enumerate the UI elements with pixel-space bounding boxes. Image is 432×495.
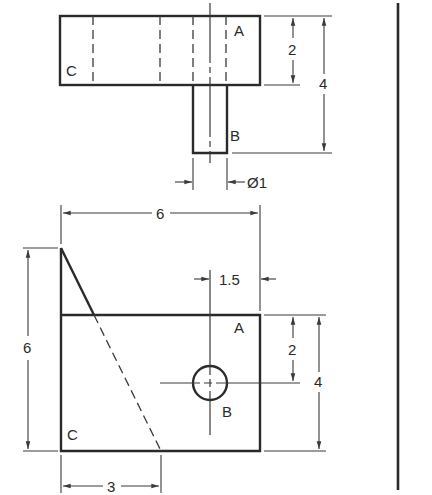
dim-4-front: 4: [314, 373, 322, 390]
slanted-edge: [61, 248, 94, 315]
top-view: A B C 2 4 Ø1: [60, 3, 332, 191]
label-a: A: [234, 319, 244, 336]
hidden-slanted-edge: [94, 315, 161, 451]
dim-2-top: 2: [288, 41, 296, 58]
front-view: 6 1.5 A B C 6 2 4: [23, 205, 326, 495]
dim-3: 3: [107, 478, 115, 495]
dim-1-5: 1.5: [219, 271, 240, 288]
dim-2-front: 2: [288, 341, 296, 358]
label-b: B: [230, 127, 240, 144]
dim-diameter: Ø1: [247, 174, 267, 191]
label-c: C: [66, 62, 77, 79]
dim-4-top: 4: [319, 75, 327, 92]
label-c: C: [67, 426, 78, 443]
dim-6-height: 6: [23, 339, 31, 356]
label-b: B: [222, 403, 232, 420]
label-a: A: [234, 22, 244, 39]
technical-drawing: A B C 2 4 Ø1 6: [0, 0, 432, 495]
dim-6-width: 6: [156, 205, 164, 222]
